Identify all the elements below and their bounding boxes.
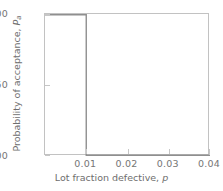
y-tick-label: 0.00	[0, 150, 8, 161]
y-axis-title-subscript: a	[15, 15, 23, 19]
data-series-ideal-oc-curve	[45, 14, 210, 156]
x-tick-label: 0.02	[104, 158, 150, 169]
x-tick-mark	[128, 149, 129, 154]
x-axis-title: Lot fraction defective, p	[0, 172, 223, 183]
y-axis-title: Probability of acceptance, Pa	[11, 3, 24, 163]
plot-area	[44, 13, 209, 155]
x-tick-label: 0.03	[145, 158, 191, 169]
x-tick-mark	[169, 149, 170, 154]
y-axis-title-text: Probability of acceptance,	[11, 25, 22, 151]
y-tick-label: 0.50	[0, 79, 8, 90]
x-tick-mark	[209, 149, 210, 154]
y-tick-mark	[45, 14, 50, 15]
chart-figure: 1.00 0.50 0.00 0.01 0.02 0.03 0.04 Lot f…	[0, 0, 223, 191]
y-axis-title-symbol: P	[11, 20, 22, 26]
x-axis-title-text: Lot fraction defective,	[55, 172, 162, 183]
step-line	[45, 15, 210, 156]
x-tick-label: 0.04	[186, 158, 223, 169]
x-tick-label: 0.01	[62, 158, 108, 169]
y-tick-mark	[45, 85, 50, 86]
x-tick-mark	[86, 149, 87, 154]
y-tick-label: 1.00	[0, 8, 8, 19]
y-tick-mark	[45, 155, 50, 156]
x-axis-title-symbol: p	[162, 172, 168, 183]
